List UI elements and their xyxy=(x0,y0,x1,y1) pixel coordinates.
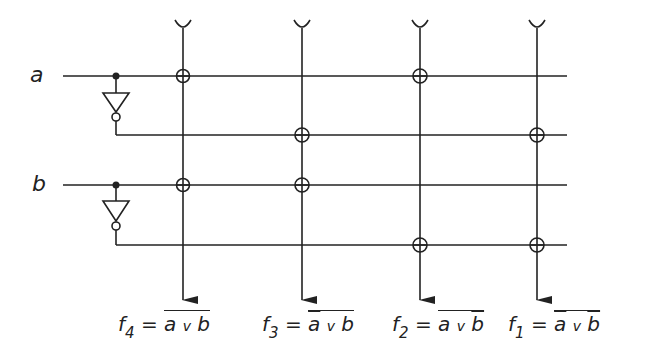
fn-name: f xyxy=(508,312,515,336)
output-label-f1: f1 = a v b xyxy=(508,312,600,336)
fn-index: 2 xyxy=(399,324,409,342)
var: a xyxy=(308,312,320,336)
expression: a v b xyxy=(554,310,600,336)
var: b xyxy=(341,312,354,336)
output-label-f2: f2 = a v b xyxy=(392,312,484,336)
or: v xyxy=(457,318,465,334)
or: v xyxy=(573,318,581,334)
output-label-f3: f3 = a v b xyxy=(262,312,354,336)
output-label-f4: f4 = a v b xyxy=(118,312,210,336)
var: b xyxy=(197,312,210,336)
var: a xyxy=(164,312,176,336)
var: a xyxy=(438,312,450,336)
input-label-b: b xyxy=(32,171,46,196)
var: a xyxy=(554,312,566,336)
fn-name: f xyxy=(118,312,125,336)
equals: = xyxy=(531,312,548,336)
or: v xyxy=(183,318,191,334)
fn-name: f xyxy=(262,312,269,336)
fn-index: 1 xyxy=(515,324,525,342)
expression: a v b xyxy=(164,310,210,336)
input-label-a: a xyxy=(30,62,43,87)
var: b xyxy=(587,312,600,336)
equals: = xyxy=(141,312,158,336)
var: b xyxy=(471,312,484,336)
equals: = xyxy=(415,312,432,336)
equals: = xyxy=(285,312,302,336)
fn-name: f xyxy=(392,312,399,336)
expression: a v b xyxy=(438,310,484,336)
fn-index: 3 xyxy=(269,324,279,342)
fn-index: 4 xyxy=(125,324,135,342)
connection-nodes xyxy=(177,69,545,252)
or: v xyxy=(327,318,335,334)
expression: a v b xyxy=(308,310,354,336)
